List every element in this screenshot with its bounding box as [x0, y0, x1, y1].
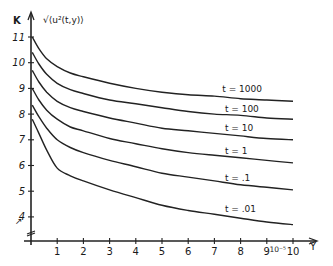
y-tick-label: 9: [19, 83, 25, 94]
y-tick-label: 5: [19, 186, 25, 197]
x-tick-label: 4: [133, 246, 139, 257]
series-label-4: t = .1: [225, 173, 250, 183]
x-tick-label: 3: [106, 246, 112, 257]
y-tick-label: 10: [12, 57, 25, 68]
data-series: [32, 37, 293, 225]
y-tick-label: 6: [19, 160, 25, 171]
y-tick-label: 11: [12, 32, 25, 43]
y-axis-label-k: K: [13, 15, 22, 26]
y-axis-label-quantity: √⟨u²(t,y)⟩: [43, 15, 84, 25]
y-tick-label: 7: [19, 134, 26, 145]
x-tick-label: 1: [54, 246, 60, 257]
y-tick-label: 8: [19, 109, 25, 120]
x-axis-label: Y: [309, 241, 317, 252]
series-label-3: t = 1: [225, 146, 248, 156]
series-label-2: t = 10: [225, 123, 254, 133]
series-labels: t = 1000t = 100t = 10t = 1t = .1t = .01: [222, 84, 262, 214]
x-tick-label: 5: [159, 246, 165, 257]
chart-container: ↗ 123456789104567891011 t = 1000t = 100t…: [0, 0, 333, 266]
x-tick-label: 10: [287, 246, 300, 257]
x-tick-label: 2: [80, 246, 86, 257]
line-chart: ↗ 123456789104567891011 t = 1000t = 100t…: [0, 0, 333, 266]
y-tick-label: 4: [19, 211, 25, 222]
x-tick-label: 7: [211, 246, 217, 257]
series-label-5: t = .01: [225, 204, 256, 214]
series-line-4: [32, 105, 293, 190]
x-tick-label: 6: [185, 246, 191, 257]
x-tick-label: 8: [237, 246, 243, 257]
series-label-0: t = 1000: [222, 84, 262, 94]
series-label-1: t = 100: [225, 104, 259, 114]
x-axis-scale-note: ·10⁻⁵: [267, 245, 286, 254]
